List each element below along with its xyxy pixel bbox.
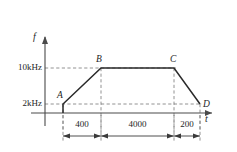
y-axis-label: f	[33, 32, 36, 42]
dimension-label-200: 200	[174, 120, 200, 129]
dim-arrowhead-1-left	[63, 133, 70, 138]
dim-arrowhead-1-right	[94, 133, 101, 138]
dim-arrowhead-2-left	[101, 133, 108, 138]
dim-arrowhead-3-left	[174, 133, 181, 138]
point-label-c: C	[170, 55, 176, 65]
y-axis-arrowhead	[42, 36, 48, 44]
dim-arrowhead-2-right	[167, 133, 174, 138]
x-axis-label: t	[205, 114, 208, 124]
dimension-label-4000: 4000	[101, 120, 174, 129]
point-label-a: A	[57, 91, 63, 101]
y-tick-label-2khz: 2kHz	[6, 99, 42, 108]
frequency-profile-curve	[63, 68, 200, 113]
dimension-label-400: 400	[63, 120, 101, 129]
point-label-d: D	[203, 100, 210, 110]
figure-root: f t 10kHz 2kHz A B C D 400 4000 200	[0, 0, 237, 152]
y-tick-label-10khz: 10kHz	[6, 63, 42, 72]
dim-arrowhead-3-right	[193, 133, 200, 138]
point-label-b: B	[96, 55, 102, 65]
frequency-ramp-chart	[0, 0, 237, 152]
